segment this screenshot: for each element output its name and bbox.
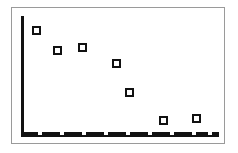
- x-axis-tick: [170, 132, 174, 135]
- data-point-marker: [159, 116, 168, 125]
- scatter-plot: [0, 0, 238, 153]
- data-point-marker: [125, 88, 134, 97]
- y-axis-spine: [21, 16, 24, 137]
- data-point-marker: [78, 43, 87, 52]
- data-point-marker: [192, 114, 201, 123]
- x-axis-tick: [148, 132, 152, 135]
- x-axis-tick: [38, 132, 42, 135]
- data-point-marker: [112, 59, 121, 68]
- screenshot-root: [0, 0, 238, 153]
- x-axis-spine: [21, 132, 219, 137]
- x-axis-tick: [104, 132, 108, 135]
- data-point-marker: [53, 46, 62, 55]
- x-axis-tick: [60, 132, 64, 135]
- data-point-marker: [32, 26, 41, 35]
- x-axis-tick: [192, 132, 196, 135]
- x-axis-tick: [126, 132, 130, 135]
- x-axis-tick: [208, 132, 212, 135]
- x-axis-tick: [82, 132, 86, 135]
